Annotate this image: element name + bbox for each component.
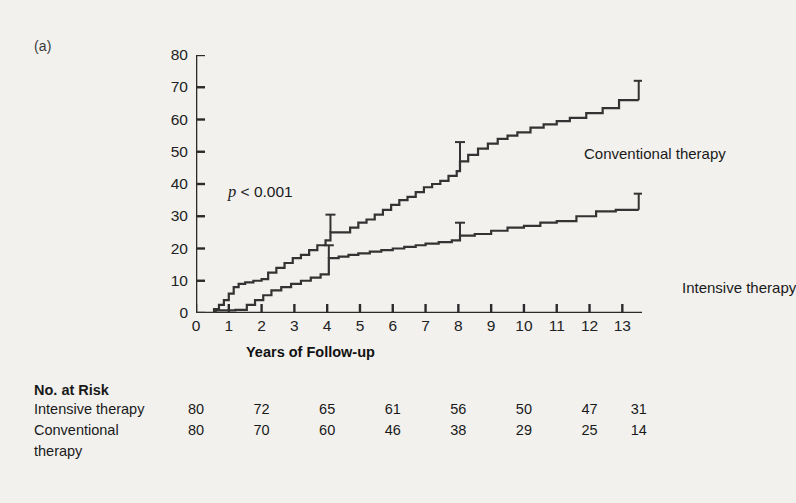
- p-symbol: p: [228, 182, 236, 201]
- risk-table-title: No. at Risk: [34, 382, 654, 398]
- risk-value: 14: [624, 422, 654, 438]
- y-tick-label: 40: [156, 175, 188, 193]
- x-tick-label: 8: [447, 317, 469, 335]
- risk-table-rows: Intensive therapy8072656156504731Convent…: [34, 401, 654, 464]
- x-tick-label: 13: [611, 317, 633, 335]
- y-tick-label: 70: [156, 78, 188, 96]
- risk-value: 80: [181, 422, 211, 438]
- risk-value: 80: [181, 401, 211, 417]
- x-tick-label: 7: [415, 317, 437, 335]
- risk-row-label: Intensive therapy: [34, 401, 144, 417]
- error-bar: [455, 142, 465, 161]
- error-bar: [634, 194, 642, 210]
- series-label-conventional: Conventional therapy: [584, 145, 726, 162]
- y-tick-label: 60: [156, 111, 188, 129]
- error-bar: [325, 215, 335, 233]
- risk-row-label-continued: therapy: [34, 443, 82, 459]
- risk-value: 56: [443, 401, 473, 417]
- x-tick-label: 10: [513, 317, 535, 335]
- y-tick-label: 0: [156, 304, 188, 322]
- error-bar: [634, 81, 642, 100]
- risk-row-label: Conventional: [34, 422, 119, 438]
- x-tick-labels: 012345678910111213: [196, 317, 642, 341]
- y-axis-title: Cumulative Incidence of Any Cardiovascul…: [109, 0, 145, 25]
- risk-value: 50: [509, 401, 539, 417]
- risk-value: 65: [312, 401, 342, 417]
- y-axis-title-line2: Cardiovascular Event (%): [127, 0, 145, 25]
- y-tick-label: 20: [156, 240, 188, 258]
- x-tick-label: 1: [218, 317, 240, 335]
- risk-table-row: Conventionaltherapy8070604638292514: [34, 422, 654, 464]
- y-tick-label: 10: [156, 272, 188, 290]
- risk-value: 70: [247, 422, 277, 438]
- y-tick-labels: 01020304050607080: [152, 55, 188, 313]
- error-bar: [455, 223, 465, 236]
- risk-value: 60: [312, 422, 342, 438]
- x-tick-label: 12: [579, 317, 601, 335]
- risk-value: 29: [509, 422, 539, 438]
- panel-label: (a): [34, 38, 52, 54]
- number-at-risk-table: No. at Risk Intensive therapy80726561565…: [34, 382, 654, 464]
- x-tick-label: 11: [546, 317, 568, 335]
- risk-value: 46: [378, 422, 408, 438]
- risk-value: 61: [378, 401, 408, 417]
- x-tick-label: 5: [349, 317, 371, 335]
- x-tick-label: 6: [382, 317, 404, 335]
- p-value-annotation: p < 0.001: [228, 182, 293, 202]
- x-tick-label: 0: [185, 317, 207, 335]
- risk-value: 38: [443, 422, 473, 438]
- series-label-intensive: Intensive therapy: [682, 279, 796, 296]
- x-axis-title: Years of Follow-up: [246, 344, 375, 360]
- risk-table-row: Intensive therapy8072656156504731: [34, 401, 654, 422]
- x-tick-label: 9: [480, 317, 502, 335]
- error-bar: [324, 245, 334, 258]
- y-tick-label: 30: [156, 207, 188, 225]
- series-curve-intensive: [196, 210, 639, 313]
- y-axis-title-line1: Cumulative Incidence of Any: [109, 0, 127, 25]
- risk-value: 25: [575, 422, 605, 438]
- series-curve-conventional: [196, 100, 639, 313]
- y-tick-label: 50: [156, 143, 188, 161]
- risk-value: 72: [247, 401, 277, 417]
- x-tick-label: 3: [283, 317, 305, 335]
- y-tick-label: 80: [156, 46, 188, 64]
- x-tick-label: 4: [316, 317, 338, 335]
- p-value-text: < 0.001: [236, 183, 292, 200]
- risk-value: 47: [575, 401, 605, 417]
- risk-value: 31: [624, 401, 654, 417]
- x-tick-label: 2: [251, 317, 273, 335]
